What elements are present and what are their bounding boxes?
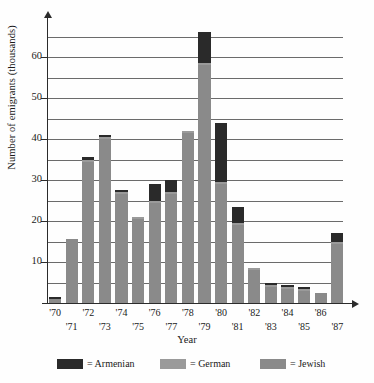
bar-segment-german — [331, 242, 343, 244]
bar-87[interactable] — [331, 233, 343, 303]
y-axis-tick-label: 30 — [16, 173, 42, 184]
emigrants-bar-chart: Number of emigrants (thousands) 60504030… — [0, 0, 374, 383]
bar-86[interactable] — [315, 293, 327, 303]
bar-71[interactable] — [66, 239, 78, 303]
bar-segment-armenian — [198, 32, 210, 63]
legend-label-jewish: = Jewish — [290, 358, 325, 369]
bar-segment-armenian — [49, 297, 61, 299]
bar-segment-german — [149, 201, 161, 203]
bar-segment-armenian — [115, 190, 127, 192]
legend-item-german[interactable]: = German — [160, 358, 230, 369]
bar-75[interactable] — [132, 217, 144, 303]
bar-segment-armenian — [265, 283, 277, 286]
bar-77[interactable] — [165, 180, 177, 303]
bar-segment-armenian — [99, 135, 111, 137]
bar-segment-german — [99, 137, 111, 139]
bar-segment-jewish — [248, 270, 260, 303]
bar-segment-german — [132, 217, 144, 219]
bar-segment-german — [215, 182, 227, 184]
x-axis-label-76: '76 — [143, 307, 167, 318]
legend-item-armenian[interactable]: = Armenian — [57, 358, 135, 369]
chart-legend: = Armenian= German= Jewish — [0, 358, 374, 376]
bar-segment-armenian — [82, 157, 94, 159]
bar-segment-german — [82, 160, 94, 162]
bar-segment-jewish — [66, 239, 78, 303]
x-axis-label-70: '70 — [43, 307, 67, 318]
x-axis-label-72: '72 — [76, 307, 100, 318]
bar-segment-jewish — [82, 162, 94, 303]
x-axis-label-77: '77 — [159, 321, 183, 332]
bars-container — [47, 16, 353, 303]
bar-85[interactable] — [298, 287, 310, 303]
legend-item-jewish[interactable]: = Jewish — [260, 358, 325, 369]
bar-segment-jewish — [115, 194, 127, 303]
legend-swatch-armenian — [57, 359, 83, 369]
y-axis-tick-label: 20 — [16, 214, 42, 225]
bar-segment-german — [248, 268, 260, 270]
bar-segment-armenian — [281, 285, 293, 288]
x-axis-label-81: '81 — [226, 321, 250, 332]
y-axis-tick-label: 40 — [16, 132, 42, 143]
bar-segment-german — [298, 289, 310, 290]
bar-segment-jewish — [281, 289, 293, 303]
bar-segment-jewish — [265, 287, 277, 303]
bar-segment-german — [265, 285, 277, 286]
y-axis-title: Number of emigrants (thousands) — [6, 13, 17, 183]
bar-segment-jewish — [315, 293, 327, 303]
x-axis-label-86: '86 — [309, 307, 333, 318]
bar-82[interactable] — [248, 268, 260, 303]
bar-83[interactable] — [265, 283, 277, 304]
legend-label-armenian: = Armenian — [87, 358, 135, 369]
bar-segment-german — [115, 192, 127, 194]
legend-label-german: = German — [190, 358, 230, 369]
bar-segment-jewish — [298, 291, 310, 303]
bar-segment-jewish — [182, 133, 194, 303]
bar-segment-armenian — [215, 123, 227, 182]
bar-78[interactable] — [182, 131, 194, 303]
bar-segment-jewish — [49, 299, 61, 303]
bar-74[interactable] — [115, 190, 127, 303]
x-axis-label-83: '83 — [259, 321, 283, 332]
bar-segment-german — [232, 223, 244, 225]
bar-segment-german — [165, 192, 177, 194]
x-axis-labels: '70'71'72'73'74'75'76'77'78'79'80'81'82'… — [0, 305, 374, 335]
bar-segment-armenian — [149, 184, 161, 200]
x-axis-title: Year — [0, 334, 374, 345]
bar-73[interactable] — [99, 135, 111, 303]
x-axis-label-80: '80 — [209, 307, 233, 318]
bar-segment-german — [281, 287, 293, 288]
bar-segment-jewish — [198, 65, 210, 303]
bar-segment-jewish — [99, 139, 111, 303]
bar-segment-jewish — [232, 225, 244, 303]
bar-segment-jewish — [165, 194, 177, 303]
x-axis-label-84: '84 — [276, 307, 300, 318]
bar-segment-armenian — [165, 180, 177, 192]
y-axis-tick-label: 60 — [16, 50, 42, 61]
x-axis-label-73: '73 — [93, 321, 117, 332]
bar-segment-armenian — [298, 287, 310, 290]
bar-segment-armenian — [232, 207, 244, 223]
bar-segment-armenian — [331, 233, 343, 241]
legend-swatch-jewish — [260, 359, 286, 369]
bar-76[interactable] — [149, 184, 161, 303]
legend-swatch-german — [160, 359, 186, 369]
x-axis-label-85: '85 — [292, 321, 316, 332]
bar-segment-jewish — [149, 203, 161, 303]
bar-segment-jewish — [331, 244, 343, 303]
bar-70[interactable] — [49, 297, 61, 303]
x-axis-label-79: '79 — [193, 321, 217, 332]
bar-81[interactable] — [232, 207, 244, 303]
bar-84[interactable] — [281, 285, 293, 303]
bar-72[interactable] — [82, 157, 94, 303]
x-axis-line — [42, 303, 354, 304]
y-axis-tick-label: 10 — [16, 255, 42, 266]
bar-segment-jewish — [132, 219, 144, 303]
x-axis-label-82: '82 — [242, 307, 266, 318]
bar-segment-jewish — [215, 184, 227, 303]
x-axis-label-87: '87 — [325, 321, 349, 332]
x-axis-label-75: '75 — [126, 321, 150, 332]
bar-79[interactable] — [198, 32, 210, 303]
bar-segment-german — [182, 131, 194, 133]
y-axis-tick-label: 50 — [16, 91, 42, 102]
bar-80[interactable] — [215, 123, 227, 303]
